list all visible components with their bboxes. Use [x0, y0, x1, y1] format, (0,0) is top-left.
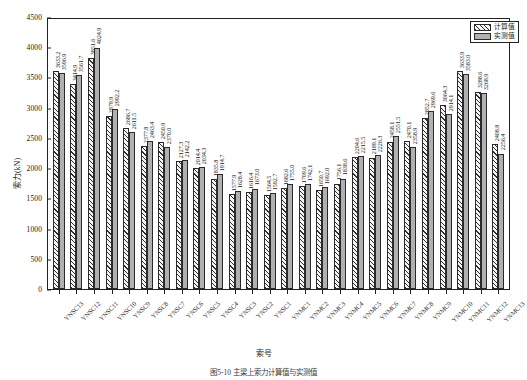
x-axis-tick-mark: [322, 290, 323, 294]
y-axis-tick-label: 1500: [27, 196, 42, 204]
bar-group: 2408.82256.4: [489, 19, 507, 289]
x-axis-tick: YNMC11: [454, 291, 472, 349]
x-axis-tick: YNSC11: [85, 291, 103, 349]
bar-group: 1709.61742.1: [296, 19, 314, 289]
bar-meas: 2358.9: [410, 147, 416, 289]
x-axis-tick: YNMC1: [279, 291, 297, 349]
bar-group: 2470.12358.9: [402, 19, 420, 289]
x-axis-tick: YNMC6: [366, 291, 384, 349]
chart-figure: 索力(kN) 050010001500200025003000350040004…: [0, 0, 527, 380]
x-axis-tick-mark: [76, 290, 77, 294]
x-axis-tick-mark: [112, 290, 113, 294]
x-axis-tick-mark: [59, 290, 60, 294]
bar-group: 3414.93561.7: [68, 19, 86, 289]
bar-meas: 1628.4: [235, 191, 241, 289]
bar-group: 3633.23596.9: [50, 19, 68, 289]
x-axis-tick: YNSC4: [208, 291, 226, 349]
legend-label-calculated: 计算值: [494, 24, 515, 31]
bar-group: 1564.51592.7: [261, 19, 279, 289]
bar-meas: 2215.5: [358, 156, 364, 289]
bar-value-label: 1692.0: [324, 168, 330, 184]
legend-item-measured: 实测值: [474, 33, 515, 40]
bar-value-label: 1755.0: [289, 164, 295, 180]
bar-group: 2879.92992.2: [103, 19, 121, 289]
bar-meas: 2969.6: [428, 111, 434, 289]
y-axis-tick-label: 3000: [27, 105, 42, 113]
x-axis-tick: YNMC5: [349, 291, 367, 349]
x-axis-tick: YNSC2: [243, 291, 261, 349]
bar-meas: 3596.9: [59, 73, 65, 289]
bar-meas: 2551.5: [393, 136, 399, 289]
bar-meas: 2992.2: [112, 109, 118, 289]
y-axis: 索力(kN) 050010001500200025003000350040004…: [0, 18, 47, 290]
bar-value-label: 2358.9: [412, 128, 418, 144]
y-axis-tick-label: 0: [38, 286, 42, 294]
bar-meas: 1755.0: [287, 184, 293, 289]
legend-label-measured: 实测值: [494, 33, 515, 40]
x-axis-tick-label: YNMC13: [503, 301, 526, 324]
bar-value-label: 3583.0: [465, 55, 471, 71]
bar-value-label: 2463.4: [148, 122, 154, 138]
x-axis-tick-mark: [182, 290, 183, 294]
bar-value-label: 1628.4: [236, 172, 242, 188]
bar-group: 3851.64024.9: [85, 19, 103, 289]
x-axis-tick: YNSC13: [50, 291, 68, 349]
bar-meas: 2034.3: [199, 167, 205, 289]
bar-group: 1616.41673.0: [243, 19, 261, 289]
x-axis-tick: YNSC9: [120, 291, 138, 349]
bar-meas: 1838.6: [340, 179, 346, 289]
x-axis-tick-mark: [94, 290, 95, 294]
bar-group: 2127.32142.2: [173, 19, 191, 289]
bar-value-label: 1838.6: [342, 159, 348, 175]
x-axis-tick-mark: [498, 290, 499, 294]
bar-meas: 3268.9: [481, 93, 487, 289]
x-axis-tick: YNMC3: [314, 291, 332, 349]
bar-value-label: 2969.6: [430, 91, 436, 107]
bar-value-label: 2914.1: [447, 95, 453, 111]
y-axis-tick-label: 4500: [27, 14, 42, 22]
x-axis-tick-mark: [287, 290, 288, 294]
y-axis-tick-label: 500: [30, 256, 42, 264]
bar-value-label: 2551.5: [395, 117, 401, 133]
bar-group: 1835.81914.7: [208, 19, 226, 289]
y-axis-tick-label: 2000: [27, 165, 42, 173]
x-axis-tick-mark: [393, 290, 394, 294]
bar-group: 2014.42034.3: [191, 19, 209, 289]
bar-meas: 1692.0: [322, 187, 328, 289]
bar-meas: 2914.1: [446, 114, 452, 289]
bar-value-label: 1914.7: [219, 155, 225, 171]
bar-value-label: 1592.7: [272, 174, 278, 190]
x-axis-tick: YNSC12: [68, 291, 86, 349]
y-axis-tick-label: 2500: [27, 135, 42, 143]
x-axis-tick-mark: [235, 290, 236, 294]
x-axis-tick: YNMC12: [472, 291, 490, 349]
bar-value-label: 2215.5: [359, 137, 365, 153]
x-axis-tick-mark: [481, 290, 482, 294]
bar-meas: 2611.5: [129, 132, 135, 289]
bar-value-label: 1742.1: [307, 165, 313, 181]
x-axis-tick: YNMC13: [489, 291, 507, 349]
x-axis-tick: YNMC2: [296, 291, 314, 349]
legend-swatch-calculated-icon: [474, 24, 491, 31]
bar-meas: 1592.7: [270, 193, 276, 289]
bar-group: 2458.12551.5: [384, 19, 402, 289]
bar-group: 2450.92370.0: [155, 19, 173, 289]
x-axis-tick-mark: [463, 290, 464, 294]
bar-value-label: 2226.3: [377, 136, 383, 152]
y-axis-tick-label: 4000: [27, 44, 42, 52]
y-axis-tick-label: 1000: [27, 226, 42, 234]
x-axis-tick-mark: [446, 290, 447, 294]
bar-value-label: 2370.0: [166, 127, 172, 143]
bar-meas: 1914.7: [217, 174, 223, 289]
x-axis-tick: YNSC7: [155, 291, 173, 349]
bar-group: 1650.71692.0: [314, 19, 332, 289]
x-axis-tick-mark: [375, 290, 376, 294]
x-axis: YNSC13YNSC12YNSC11YNSC10YNSC9YNSC8YNSC7Y…: [48, 291, 509, 349]
bar-value-label: 2256.4: [500, 134, 506, 150]
bar-meas: 2142.2: [182, 160, 188, 289]
x-axis-tick: YNSC6: [173, 291, 191, 349]
bar-series-container: 3633.23596.93414.93561.73851.64024.92879…: [48, 19, 509, 289]
figure-caption: 图5-10 主梁上索力计算值与实测值: [0, 366, 527, 377]
x-axis-tick-mark: [252, 290, 253, 294]
x-axis-tick: YNMC10: [437, 291, 455, 349]
